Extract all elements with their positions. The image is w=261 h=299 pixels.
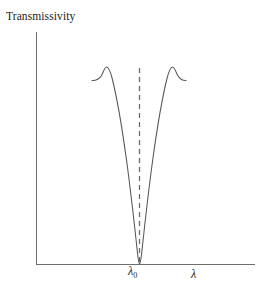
x-axis-label: λ: [191, 267, 196, 282]
y-axis-label: Transmissivity: [6, 9, 75, 23]
lambda-zero-subscript: 0: [133, 271, 137, 280]
plot-canvas: [0, 0, 261, 299]
transmissivity-figure: Transmissivity λ0 λ: [0, 0, 261, 299]
lambda-zero-tick-label: λ0: [128, 264, 137, 280]
